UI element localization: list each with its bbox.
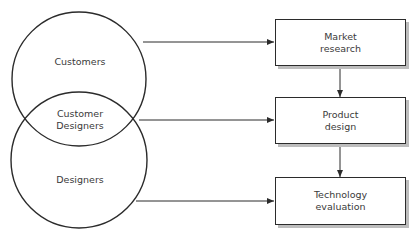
market-research-box: Market research — [275, 19, 406, 66]
overlap-label-line1: Customer — [56, 108, 104, 120]
product-design-line1: Product — [322, 109, 358, 121]
market-research-line1: Market — [324, 31, 357, 43]
technology-evaluation-line1: Technology — [314, 189, 367, 201]
overlap-label: Customer Designers — [56, 108, 104, 132]
designers-label: Designers — [56, 174, 104, 186]
market-research-line2: research — [320, 43, 361, 55]
technology-evaluation-box: Technology evaluation — [275, 177, 406, 225]
customers-label: Customers — [54, 56, 105, 68]
product-design-box: Product design — [275, 97, 406, 144]
overlap-label-line2: Designers — [56, 120, 104, 132]
technology-evaluation-line2: evaluation — [316, 201, 366, 213]
product-design-line2: design — [325, 121, 357, 133]
